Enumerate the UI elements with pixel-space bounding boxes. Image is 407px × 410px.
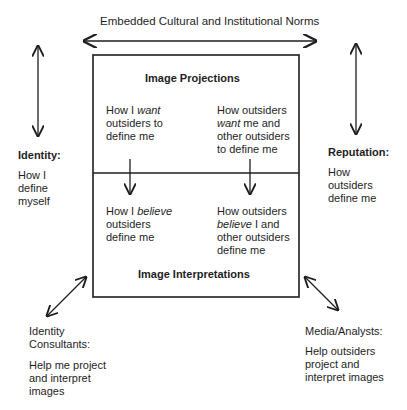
reputation-body: How outsiders define me <box>328 166 376 205</box>
media-heading: Media/Analysts: <box>305 325 383 338</box>
identity-heading: Identity: <box>18 149 61 162</box>
consultants-body: Help me project and interpret images <box>29 359 106 398</box>
cell-top-left: How I want outsiders to define me <box>106 104 163 143</box>
consultants-double-arrow <box>47 277 86 316</box>
cell-top-right: How outsiders want me and other outsider… <box>217 104 290 156</box>
image-interpretations-heading: Image Interpretations <box>138 268 250 281</box>
reputation-heading: Reputation: <box>328 146 389 159</box>
image-box <box>93 55 299 297</box>
media-double-arrow <box>305 277 338 310</box>
media-body: Help outsiders project and interpret ima… <box>305 345 384 384</box>
consultants-heading: Identity Consultants: <box>29 325 90 351</box>
image-projections-heading: Image Projections <box>145 72 240 85</box>
cell-bottom-left: How I believe outsiders define me <box>106 205 172 244</box>
identity-body: How I define myself <box>18 169 50 208</box>
cell-bottom-right: How outsiders believe I and other outsid… <box>217 205 290 257</box>
norms-label: Embedded Cultural and Institutional Norm… <box>100 15 319 27</box>
